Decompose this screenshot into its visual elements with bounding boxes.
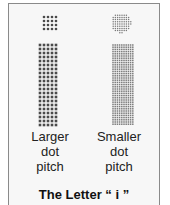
small-pitch-label: Smaller dot pitch <box>84 129 154 174</box>
dot-pitch-illustration <box>0 0 170 205</box>
large-pitch-letter-i <box>39 16 58 127</box>
figure-title: The Letter “ i ” <box>8 187 160 202</box>
small-pitch-letter-i <box>112 14 133 125</box>
large-pitch-label: Larger dot pitch <box>15 129 85 174</box>
